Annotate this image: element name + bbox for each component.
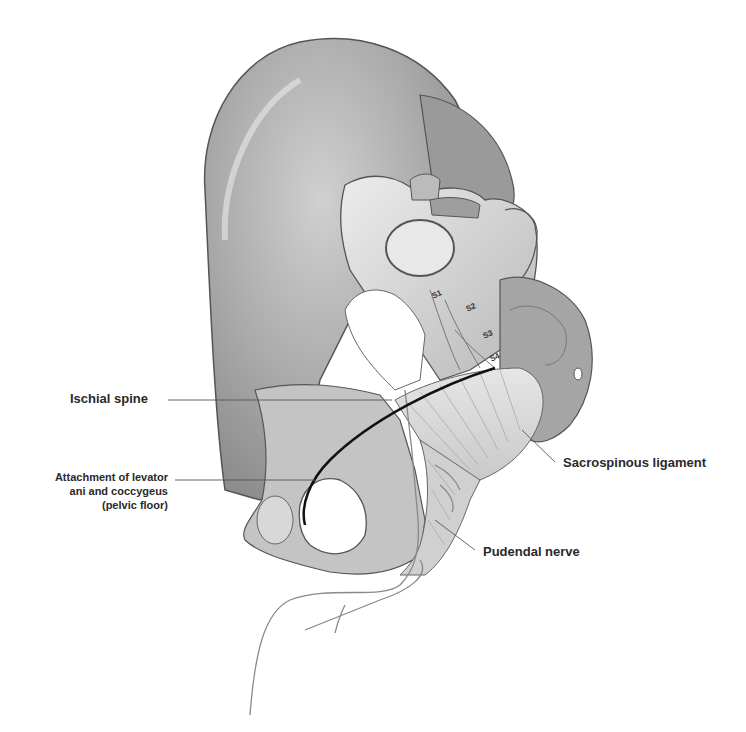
label-ischial-spine: Ischial spine bbox=[70, 391, 148, 407]
label-sacrospinous-ligament: Sacrospinous ligament bbox=[563, 455, 706, 471]
ischium bbox=[244, 385, 425, 574]
label-pudendal-nerve: Pudendal nerve bbox=[483, 544, 580, 560]
label-levator-line3: (pelvic floor) bbox=[28, 498, 168, 512]
label-levator-line2: ani and coccygeus bbox=[28, 484, 168, 498]
label-levator-line1: Attachment of levator bbox=[28, 470, 168, 484]
label-levator-attachment: Attachment of levator ani and coccygeus … bbox=[28, 470, 168, 512]
pelvis-illustration bbox=[0, 0, 746, 732]
